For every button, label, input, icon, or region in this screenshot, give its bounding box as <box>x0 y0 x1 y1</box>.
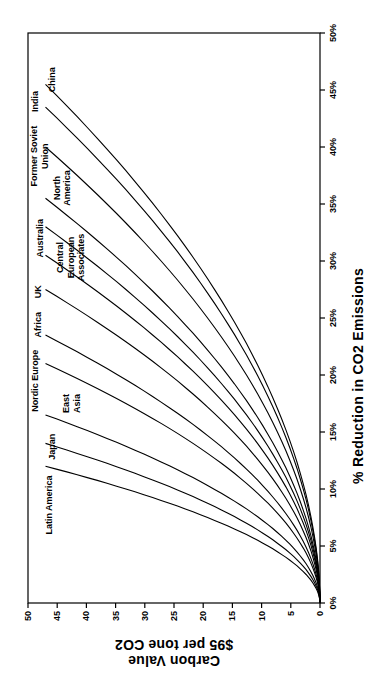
y-axis-tick-label: 40 <box>81 611 91 621</box>
x-axis-tick-label: 40% <box>328 138 338 156</box>
y-axis-tick-label: 0 <box>315 611 325 616</box>
curve-japan <box>46 443 321 603</box>
curve-label-line: Former Soviet <box>29 126 40 187</box>
curve-china <box>46 84 321 603</box>
x-axis-title: % Reduction in CO2 Emissions <box>350 226 366 526</box>
curve-label-central-european-associates: CentralEuropeanAssociates <box>55 234 87 282</box>
curve-label-line: China <box>47 67 58 92</box>
chart-plot-area: 0%5%10%15%20%25%30%35%40%45%50%051015202… <box>0 0 383 684</box>
curve-label-line: Japan <box>47 434 58 460</box>
curve-label-china: China <box>47 67 58 92</box>
x-axis-tick-label: 45% <box>328 81 338 99</box>
x-axis-tick-label: 50% <box>328 24 338 42</box>
x-axis-tick-label: 10% <box>328 480 338 498</box>
curve-label-africa: Africa <box>33 312 44 338</box>
x-axis-tick-label: 30% <box>328 252 338 270</box>
curve-label-latin-america: Latin America <box>44 475 55 534</box>
x-axis-tick-label: 20% <box>328 366 338 384</box>
curve-label-line: North <box>51 170 62 206</box>
chart-figure: 0%5%10%15%20%25%30%35%40%45%50%051015202… <box>0 0 383 684</box>
curve-label-line: Nordic Europe <box>30 350 41 412</box>
y-axis-tick-label: 5 <box>286 611 296 616</box>
y-axis-title-line2: $95 per tone CO2 <box>64 637 284 653</box>
y-axis-tick-label: 30 <box>140 611 150 621</box>
x-axis-tick-label: 15% <box>328 423 338 441</box>
curve-label-line: America <box>62 170 73 206</box>
curve-label-line: Australia <box>35 219 46 258</box>
y-axis-tick-label: 10 <box>257 611 267 621</box>
curve-label-line: India <box>30 91 41 112</box>
y-axis-tick-label: 45 <box>52 611 62 621</box>
curve-label-japan: Japan <box>47 434 58 460</box>
curve-label-line: Latin America <box>44 475 55 534</box>
x-axis-tick-label: 25% <box>328 309 338 327</box>
plot-frame <box>28 33 320 603</box>
curve-label-former-soviet-union: Former SovietUnion <box>29 126 50 187</box>
rotated-chart-canvas: 0%5%10%15%20%25%30%35%40%45%50%051015202… <box>0 0 383 684</box>
y-axis-title: Carbon Value $95 per tone CO2 <box>64 637 284 669</box>
curve-africa <box>46 335 321 603</box>
curve-label-line: European <box>66 234 77 282</box>
curve-former-soviet-union <box>46 147 321 603</box>
curve-nordic-europe <box>46 364 321 603</box>
curve-label-nordic-europe: Nordic Europe <box>30 350 41 412</box>
y-axis-tick-label: 25 <box>169 611 179 621</box>
curve-label-north-america: NorthAmerica <box>51 170 72 206</box>
curve-india <box>46 107 321 603</box>
x-axis-tick-label: 0% <box>328 596 338 609</box>
curve-label-line: Africa <box>33 312 44 338</box>
curve-label-line: UK <box>33 285 44 298</box>
y-axis-tick-label: 20 <box>198 611 208 621</box>
y-axis-tick-label: 35 <box>111 611 121 621</box>
curve-label-line: East <box>61 394 72 413</box>
curve-label-australia: Australia <box>35 219 46 258</box>
curve-label-uk: UK <box>33 285 44 298</box>
curve-label-india: India <box>30 91 41 112</box>
curve-uk <box>46 290 321 604</box>
curve-label-line: Central <box>55 234 66 282</box>
y-axis-tick-label: 50 <box>23 611 33 621</box>
x-axis-tick-label: 5% <box>328 539 338 552</box>
x-axis-tick-label: 35% <box>328 195 338 213</box>
curve-east-asia <box>46 415 321 603</box>
curve-label-line: Asia <box>71 394 82 413</box>
y-axis-tick-label: 15 <box>227 611 237 621</box>
y-axis-title-line1: Carbon Value <box>64 653 284 669</box>
curve-label-line: Associates <box>76 234 87 282</box>
curve-label-line: Union <box>39 126 50 187</box>
curve-central-european-associates <box>46 255 321 603</box>
curve-label-east-asia: EastAsia <box>61 394 82 413</box>
